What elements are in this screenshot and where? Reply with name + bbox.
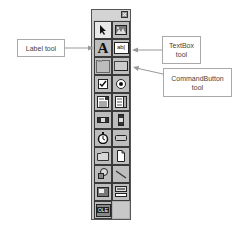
- callout-commandbutton-tool: CommandButton tool: [163, 68, 232, 97]
- callout-textbox-tool: TextBox tool: [162, 36, 201, 64]
- callout-label-tool-text: Label tool: [18, 44, 64, 53]
- callout-label-tool: Label tool: [17, 39, 65, 57]
- callout-commandbutton-tool-text-1: CommandButton: [164, 74, 231, 83]
- callout-textbox-tool-text-1: TextBox: [163, 41, 200, 50]
- callout-arrows: [0, 0, 247, 231]
- callout-commandbutton-tool-text-2: tool: [164, 83, 231, 92]
- callout-textbox-tool-text-2: tool: [163, 50, 200, 59]
